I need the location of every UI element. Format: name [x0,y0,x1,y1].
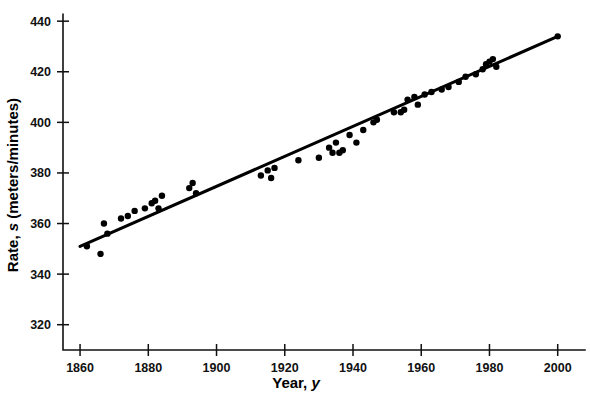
data-point [374,117,380,123]
data-point [445,84,451,90]
y-tick-label: 400 [30,116,51,130]
data-point [265,167,271,173]
x-tick-label: 1920 [271,361,299,375]
data-point [415,101,421,107]
data-point [493,64,499,70]
x-tick-label: 1900 [203,361,231,375]
data-point [555,33,561,39]
x-tick-label: 1860 [66,361,94,375]
y-tick-label: 380 [30,166,51,180]
x-tick-label: 1880 [134,361,162,375]
data-point [159,193,165,199]
data-point [258,172,264,178]
data-point [142,205,148,211]
data-point [189,180,195,186]
data-point [104,230,110,236]
x-tick-label: 2000 [544,361,572,375]
x-tick-label: 1960 [407,361,435,375]
data-point [353,139,359,145]
data-point [155,205,161,211]
tick-labels: 3203403603804004204401860188019001920194… [30,15,572,375]
data-point [271,165,277,171]
data-point [125,213,131,219]
x-axis-title: Year, y [272,374,320,391]
data-point [346,132,352,138]
scatter-plot: 3203403603804004204401860188019001920194… [0,0,590,395]
data-point [421,91,427,97]
data-point [401,107,407,113]
data-point [391,109,397,115]
data-point [439,86,445,92]
data-point [295,157,301,163]
regression-line [80,36,558,246]
x-tick-label: 1980 [476,361,504,375]
data-point [462,74,468,80]
data-point [333,139,339,145]
data-point [360,127,366,133]
data-point [84,243,90,249]
data-point [193,190,199,196]
data-point [340,147,346,153]
data-point [131,208,137,214]
data-point [316,155,322,161]
data-point [118,215,124,221]
y-axis-title: Rate, s (meters/minutes) [4,98,21,272]
y-tick-label: 320 [30,318,51,332]
y-tick-label: 340 [30,268,51,282]
data-point [490,56,496,62]
x-tick-label: 1940 [339,361,367,375]
data-point [101,220,107,226]
data-point [152,198,158,204]
y-tick-label: 420 [30,65,51,79]
y-tick-label: 440 [30,15,51,29]
axes [63,14,585,350]
data-point [428,89,434,95]
data-point [97,251,103,257]
data-point [456,79,462,85]
data-point [473,71,479,77]
data-point [404,96,410,102]
data-point [268,175,274,181]
data-point [329,150,335,156]
y-tick-label: 360 [30,217,51,231]
fit-line-segment [80,36,558,246]
chart-figure: 3203403603804004204401860188019001920194… [0,0,590,395]
data-point [411,94,417,100]
